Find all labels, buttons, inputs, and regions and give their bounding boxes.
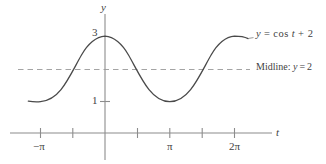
- y-tick-label-1: 1: [92, 95, 98, 106]
- y-axis-label: y: [101, 2, 106, 13]
- midline-label-prefix: Midline:: [256, 61, 290, 72]
- curve-equation-label: y = cos t + 2: [256, 29, 314, 40]
- equation-leader-line: [249, 38, 254, 39]
- midline-label-lhs: y: [293, 61, 297, 72]
- y-tick-label-3: 3: [92, 27, 98, 38]
- x-tick-label-two-pi: 2π: [229, 141, 240, 152]
- curve-equation-fn: cos: [273, 28, 289, 39]
- x-tick-label-neg-pi: −π: [33, 141, 45, 152]
- t-axis-label: t: [276, 127, 279, 138]
- midline-label-rhs: 2: [307, 61, 312, 72]
- x-tick-label-pi: π: [167, 141, 173, 152]
- midline-label-eq-sign: =: [299, 61, 305, 72]
- midline-label: Midline: y = 2: [256, 62, 312, 72]
- cosine-graph-figure: y t 3 1 −π π 2π y = cos t + 2 Midline: y…: [0, 0, 326, 164]
- plot-canvas: [0, 0, 326, 164]
- curve-equation-eq-sign: =: [264, 28, 271, 39]
- curve-equation-constant: + 2: [298, 28, 314, 39]
- curve-equation-var: t: [292, 28, 296, 39]
